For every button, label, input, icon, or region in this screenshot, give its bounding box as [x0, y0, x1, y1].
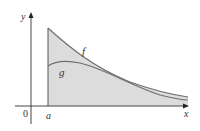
x-axis-label: x — [183, 108, 189, 119]
origin-label: 0 — [23, 108, 28, 119]
curve-g-label: g — [59, 66, 65, 78]
shaded-region — [48, 28, 188, 106]
area-between-curves-figure: y x 0 a f g — [0, 0, 200, 131]
a-label: a — [46, 110, 51, 121]
curve-f-label: f — [82, 45, 87, 57]
y-axis-label: y — [20, 11, 26, 22]
y-axis-arrow-icon — [29, 12, 34, 18]
